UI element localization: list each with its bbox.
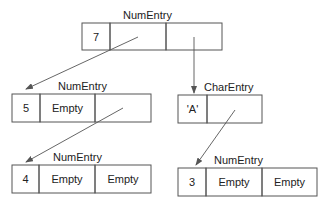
cell-empty-text: Empty <box>52 102 84 114</box>
cell-value: 4 <box>22 173 28 185</box>
node-type-label: NumEntry <box>123 9 172 21</box>
cell-value: 5 <box>23 102 29 114</box>
node-type-label: CharEntry <box>204 81 254 93</box>
cell-value: 3 <box>189 176 195 188</box>
cell-empty-text: Empty <box>218 176 250 188</box>
diagram-canvas: NumEntry7NumEntry5EmptyCharEntry'A'NumEn… <box>0 0 329 207</box>
node-type-label: NumEntry <box>214 154 263 166</box>
tree-diagram: NumEntry7NumEntry5EmptyCharEntry'A'NumEn… <box>0 0 329 207</box>
cell-empty-text: Empty <box>274 176 306 188</box>
node-charentry-a: CharEntry'A' <box>178 81 262 123</box>
cell-value: 7 <box>93 31 99 43</box>
node-type-label: NumEntry <box>53 151 102 163</box>
edges-layer <box>26 37 235 165</box>
node-cell <box>207 95 262 123</box>
cell-value: 'A' <box>187 103 199 115</box>
cell-empty-text: Empty <box>107 173 139 185</box>
node-numentry-4: NumEntry4EmptyEmpty <box>12 151 151 193</box>
node-type-label: NumEntry <box>58 80 107 92</box>
cell-empty-text: Empty <box>51 173 83 185</box>
nodes-layer: NumEntry7NumEntry5EmptyCharEntry'A'NumEn… <box>12 9 317 196</box>
node-numentry-7: NumEntry7 <box>82 9 222 50</box>
